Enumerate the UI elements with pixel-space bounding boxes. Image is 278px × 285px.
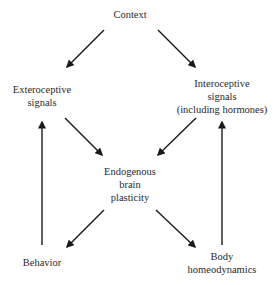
- node-interoceptive-line-1: Interoceptive: [177, 77, 268, 90]
- arrow-context-to-exteroceptive: [67, 30, 104, 67]
- node-behavior: Behavior: [23, 256, 62, 269]
- node-behavior-line: Behavior: [23, 256, 62, 269]
- node-interoceptive-line-2: signals: [177, 90, 268, 103]
- node-context: Context: [113, 8, 146, 21]
- diagram-canvas: Context Exteroceptive signals Interocept…: [0, 0, 278, 285]
- node-exteroceptive-line-2: signals: [13, 96, 71, 109]
- node-context-line: Context: [113, 8, 146, 21]
- node-endogenous-line-1: Endogenous: [104, 165, 156, 178]
- arrows-layer: [0, 0, 278, 285]
- node-exteroceptive-signals: Exteroceptive signals: [13, 83, 71, 109]
- node-interoceptive-line-3: (including hormones): [177, 103, 268, 116]
- node-interoceptive-signals: Interoceptive signals (including hormone…: [177, 77, 268, 116]
- node-body-line-2: homeodynamics: [188, 263, 257, 276]
- arrow-endogenous-to-behavior: [67, 210, 104, 247]
- arrow-interoceptive-to-endogenous: [158, 118, 196, 155]
- node-endogenous-line-2: brain: [104, 178, 156, 191]
- node-exteroceptive-line-1: Exteroceptive: [13, 83, 71, 96]
- arrow-exteroceptive-to-endogenous: [65, 118, 102, 155]
- node-endogenous-brain-plasticity: Endogenous brain plasticity: [104, 165, 156, 204]
- node-endogenous-line-3: plasticity: [104, 191, 156, 204]
- node-body-homeodynamics: Body homeodynamics: [188, 250, 257, 276]
- arrow-context-to-interoceptive: [158, 30, 195, 67]
- node-body-line-1: Body: [188, 250, 257, 263]
- arrow-endogenous-to-body: [156, 210, 195, 247]
